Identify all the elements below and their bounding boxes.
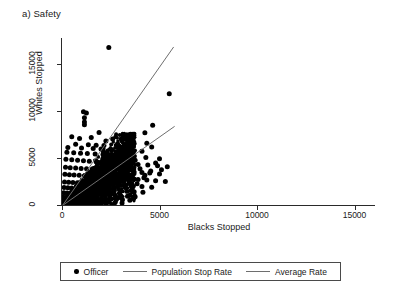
legend-label-population-stop-rate: Population Stop Rate (152, 267, 232, 277)
chart-legend: Officer Population Stop Rate Average Rat… (60, 262, 341, 281)
legend-entry-population-stop-rate: Population Stop Rate (123, 267, 232, 277)
average-rate-line-icon (246, 271, 270, 272)
y-axis-tick (57, 158, 61, 159)
officer-marker-icon (74, 269, 79, 274)
y-axis-tick-label: 10000 (14, 105, 50, 115)
legend-entry-officer: Officer (74, 267, 108, 277)
panel-title: a) Safety (22, 8, 61, 19)
x-axis-tick-label: 5000 (135, 210, 185, 220)
y-axis-title: Whites Stopped (34, 38, 44, 128)
y-axis-tick-label: 5000 (14, 152, 50, 162)
scatter-plot-canvas (62, 40, 374, 205)
x-axis-tick-label: 10000 (232, 210, 282, 220)
y-axis-tick (57, 111, 61, 112)
x-axis-tick-label: 0 (37, 210, 87, 220)
y-axis-tick-label: 0 (14, 199, 50, 209)
figure-panel-safety: a) Safety 050001000015000050001000015000… (0, 0, 394, 294)
x-axis-tick-label: 15000 (330, 210, 380, 220)
y-axis-tick-label: 15000 (14, 58, 50, 68)
plot-area (62, 40, 374, 205)
y-axis-tick (57, 64, 61, 65)
y-axis-tick (57, 205, 61, 206)
legend-entry-average-rate: Average Rate (246, 267, 327, 277)
legend-label-officer: Officer (84, 267, 109, 277)
legend-label-average-rate: Average Rate (275, 267, 327, 277)
x-axis-line (61, 205, 375, 206)
x-axis-title: Blacks Stopped (62, 222, 376, 232)
y-axis-line (61, 38, 62, 206)
population-stop-rate-line-icon (123, 271, 147, 272)
